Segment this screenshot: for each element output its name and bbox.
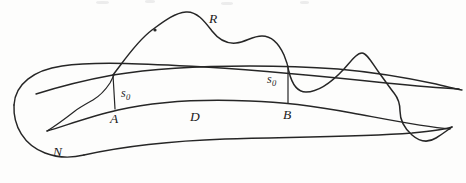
band-line-lower	[47, 100, 450, 131]
label-N: N	[53, 145, 62, 159]
outer-boundary-bottom	[84, 127, 452, 155]
label-D: D	[190, 110, 200, 124]
label-A: A	[110, 112, 118, 126]
label-R: R	[209, 12, 217, 26]
segment-s0-at-A	[113, 75, 115, 109]
label-s0-right-base: s	[267, 72, 272, 86]
diagram-drawing	[0, 0, 466, 183]
label-s0-left: s0	[121, 87, 130, 99]
tick-dot-on-curve-R	[153, 28, 156, 31]
label-s0-left-subscript: 0	[126, 92, 130, 102]
outer-boundary-top	[14, 63, 459, 105]
label-s0-right-subscript: 0	[272, 78, 276, 88]
figure-canvas: R s0 s0 A D B N	[0, 0, 466, 183]
label-s0-left-base: s	[121, 86, 126, 100]
label-B: B	[283, 108, 291, 122]
cone-upper-edge	[47, 75, 114, 131]
label-s0-right: s0	[267, 73, 276, 85]
